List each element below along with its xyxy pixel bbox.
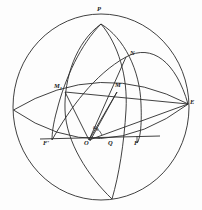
celestial-sphere-figure: P E N M M1 F F' O Q a0 [0,0,202,210]
label-angle-alpha0: a0 [93,124,98,133]
chord-m-drop [90,92,117,141]
label-foot-f-prime: F' [43,140,49,147]
meridian-arc-left [65,24,112,199]
label-angle-sub: 0 [96,127,98,132]
meridian-arc-mid [101,24,126,199]
oblique-great-circle-arc [52,52,188,140]
label-east-e: E [190,99,194,106]
label-node-n: N [130,50,135,57]
label-point-q: Q [108,140,113,147]
label-node-m1: M1 [54,83,62,92]
sphere-diagram-svg [0,0,202,210]
label-node-m: M [115,82,121,89]
label-node-m1-sub: 1 [60,86,62,91]
chord-o-e [89,104,188,140]
label-pole-p: P [97,6,101,13]
sphere-outline-circle [13,14,189,200]
horizon-back-arc [14,82,189,110]
label-foot-f: F [134,140,138,147]
label-origin-o: O [84,140,89,147]
